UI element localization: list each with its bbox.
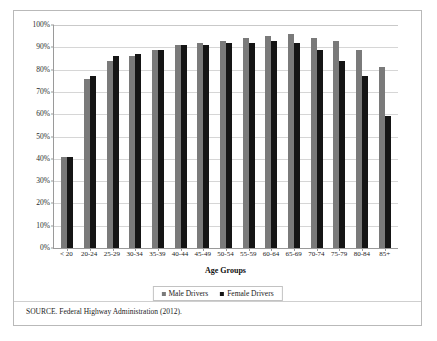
bar	[362, 76, 368, 248]
bar-group	[283, 25, 306, 248]
y-axis-tick-label: 80%	[36, 66, 50, 74]
figure-frame: 100%90%80%70%60%50%40%30%20%10%0% < 2020…	[13, 10, 422, 326]
source-note: SOURCE. Federal Highway Administration (…	[26, 307, 182, 316]
bar-group	[237, 25, 260, 248]
bar	[158, 50, 164, 248]
bar-group	[124, 25, 147, 248]
bar-group	[169, 25, 192, 248]
bar	[317, 50, 323, 248]
x-axis-tick-label: 75-79	[328, 251, 351, 258]
bar	[339, 61, 345, 248]
bar	[249, 43, 255, 248]
x-axis-tick-label: 45-49	[191, 251, 214, 258]
legend-item: Female Drivers	[220, 289, 273, 298]
x-axis-tick-labels: < 2020-2425-2930-3435-3940-4445-4950-545…	[53, 251, 398, 258]
bar-group	[147, 25, 170, 248]
y-axis-tick-label: 60%	[36, 110, 50, 118]
bar	[203, 45, 209, 248]
legend-label: Female Drivers	[227, 289, 273, 298]
bar	[90, 76, 96, 248]
bar-group	[101, 25, 124, 248]
x-axis-tick-label: 55-59	[237, 251, 260, 258]
bar	[135, 54, 141, 248]
bar	[271, 41, 277, 248]
x-axis-tick-label: 20-24	[78, 251, 101, 258]
y-axis-tick-label: 70%	[36, 88, 50, 96]
bar	[181, 45, 187, 248]
chart-legend: Male DriversFemale Drivers	[152, 286, 282, 301]
bar-group	[373, 25, 396, 248]
bar-group	[351, 25, 374, 248]
bar-series-layer	[54, 25, 398, 248]
bar-group	[260, 25, 283, 248]
bar-group	[79, 25, 102, 248]
bar	[385, 116, 391, 248]
x-axis-tick-label: 80-84	[351, 251, 374, 258]
x-axis-title: Age Groups	[53, 266, 398, 275]
bar-group	[192, 25, 215, 248]
bar	[67, 157, 73, 248]
x-axis-tick-label: 40-44	[169, 251, 192, 258]
y-axis-tick-label: 90%	[36, 44, 50, 52]
bar-group	[328, 25, 351, 248]
y-axis-tick-label: 40%	[36, 155, 50, 163]
x-axis-tick-label: 25-29	[100, 251, 123, 258]
source-divider	[14, 301, 421, 302]
bar	[113, 56, 119, 248]
y-axis-tick-label: 50%	[36, 133, 50, 141]
legend-item: Male Drivers	[161, 289, 208, 298]
chart-plot-area: 100%90%80%70%60%50%40%30%20%10%0%	[53, 25, 398, 249]
x-axis-tick-label: 70-74	[305, 251, 328, 258]
x-axis-tick-label: 30-34	[123, 251, 146, 258]
y-axis-tick-label: 30%	[36, 177, 50, 185]
legend-swatch-icon	[220, 292, 224, 296]
legend-label: Male Drivers	[168, 289, 208, 298]
bar-group	[56, 25, 79, 248]
y-axis-tick-label: 0%	[40, 244, 50, 252]
x-axis-tick-label: 65-69	[282, 251, 305, 258]
x-axis-tick-label: < 20	[55, 251, 78, 258]
bar-group	[305, 25, 328, 248]
x-axis-tick-label: 50-54	[214, 251, 237, 258]
y-axis-tick-label: 20%	[36, 200, 50, 208]
bar	[294, 43, 300, 248]
bar	[226, 43, 232, 248]
y-axis-tick-label: 100%	[33, 21, 51, 29]
x-axis-tick-label: 60-64	[260, 251, 283, 258]
y-axis-tick-label: 10%	[36, 222, 50, 230]
legend-swatch-icon	[161, 292, 165, 296]
x-axis-tick-label: 85+	[373, 251, 396, 258]
x-axis-tick-label: 35-39	[146, 251, 169, 258]
bar-group	[215, 25, 238, 248]
